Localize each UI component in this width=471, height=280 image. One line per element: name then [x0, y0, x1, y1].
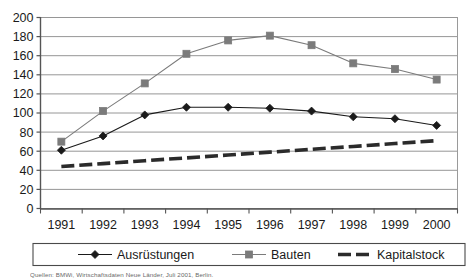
y-axis: 020406080100120140160180200: [13, 11, 41, 216]
data-point-marker: [350, 60, 357, 67]
y-axis-tick-label: 160: [13, 49, 34, 63]
data-point-marker: [433, 76, 440, 83]
line-chart: 020406080100120140160180200 199119921993…: [0, 0, 471, 280]
x-axis-tick-label: 2000: [423, 218, 451, 232]
y-axis-tick-label: 100: [13, 106, 34, 120]
data-point-marker: [100, 108, 107, 115]
data-point-marker: [225, 37, 232, 44]
y-axis-tick-label: 60: [20, 145, 34, 159]
x-axis-tick-label: 1993: [131, 218, 159, 232]
legend-label: Bauten: [271, 248, 311, 262]
x-axis-tick-label: 1999: [381, 218, 409, 232]
y-axis-tick-label: 120: [13, 87, 34, 101]
x-axis-tick-label: 1998: [339, 218, 367, 232]
y-axis-tick-label: 80: [20, 126, 34, 140]
chart-legend: AusrüstungenBautenKapitalstock: [33, 244, 465, 266]
source-note: Quellen: BMWi, Wirtschaftsdaten Neue Län…: [30, 271, 470, 278]
y-axis-tick-label: 180: [13, 30, 34, 44]
y-axis-tick-label: 40: [20, 164, 34, 178]
legend-label: Kapitalstock: [377, 248, 445, 262]
y-axis-tick-label: 140: [13, 68, 34, 82]
x-axis-tick-label: 1994: [173, 218, 201, 232]
y-axis-tick-label: 200: [13, 11, 34, 25]
y-axis-tick-label: 20: [20, 183, 34, 197]
legend-label: Ausrüstungen: [117, 248, 194, 262]
chart-figure: 020406080100120140160180200 199119921993…: [0, 0, 471, 280]
x-axis: 1991199219931994199519961997199819992000: [41, 209, 458, 232]
x-axis-tick-label: 1996: [256, 218, 284, 232]
data-point-marker: [183, 50, 190, 57]
data-point-marker: [391, 66, 398, 73]
y-axis-tick-label: 0: [27, 202, 34, 216]
x-axis-tick-label: 1992: [89, 218, 117, 232]
data-point-marker: [308, 42, 315, 49]
x-axis-tick-label: 1991: [47, 218, 75, 232]
data-point-marker: [58, 138, 65, 145]
data-point-marker: [246, 251, 253, 258]
data-point-marker: [266, 32, 273, 39]
x-axis-tick-label: 1995: [214, 218, 242, 232]
data-point-marker: [141, 80, 148, 87]
x-axis-tick-label: 1997: [298, 218, 326, 232]
